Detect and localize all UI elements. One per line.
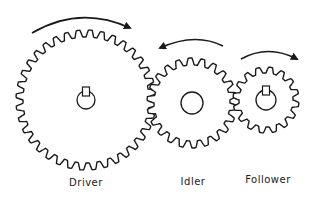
follower-keyway	[263, 86, 270, 95]
driver-keyway	[83, 87, 90, 96]
driver-label: Driver	[69, 177, 103, 188]
driver-rotation-arrow-icon	[32, 18, 130, 33]
gear-train-diagram	[0, 0, 313, 203]
idler-gear	[147, 58, 237, 148]
idler-rotation-arrow-icon	[160, 39, 223, 48]
idler-label: Idler	[181, 176, 206, 187]
follower-label: Follower	[245, 174, 291, 185]
follower-gear-teeth	[233, 67, 299, 133]
follower-gear	[233, 67, 299, 133]
driver-gear	[16, 30, 156, 170]
driver-gear-teeth	[16, 30, 156, 170]
follower-rotation-arrow-icon	[241, 52, 297, 60]
idler-gear-teeth	[147, 58, 237, 148]
